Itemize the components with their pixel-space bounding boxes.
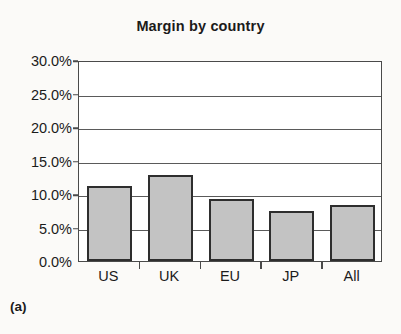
y-axis-tick-mark: [73, 94, 78, 96]
y-axis-tick-label: 30.0%: [6, 53, 72, 69]
gridline: [79, 163, 381, 164]
x-axis-tick-label: US: [78, 268, 139, 284]
y-axis-tick-label: 0.0%: [6, 254, 72, 270]
bar-eu: [209, 199, 254, 261]
bar-jp: [269, 211, 314, 261]
y-axis-tick-label: 10.0%: [6, 187, 72, 203]
x-axis-tick-label: All: [321, 268, 382, 284]
y-axis-tick-mark: [73, 161, 78, 163]
x-axis-tick-label: EU: [200, 268, 261, 284]
y-axis-tick-mark: [73, 228, 78, 230]
figure-caption: (a): [10, 299, 27, 314]
y-axis-tick-mark: [73, 194, 78, 196]
y-axis-tick-mark: [73, 127, 78, 129]
gridline: [79, 129, 381, 130]
plot-area: [78, 61, 382, 262]
y-axis-tick-label: 25.0%: [6, 87, 72, 103]
figure-panel: Margin by country 0.0%5.0%10.0%15.0%20.0…: [0, 0, 401, 334]
y-axis-tick-label: 20.0%: [6, 120, 72, 136]
x-axis-tick-label: UK: [139, 268, 200, 284]
y-axis-tick-mark: [73, 60, 78, 62]
bar-us: [87, 186, 132, 261]
y-axis-tick-label: 15.0%: [6, 154, 72, 170]
y-axis-tick-label: 5.0%: [6, 221, 72, 237]
gridline: [79, 96, 381, 97]
chart-title: Margin by country: [0, 18, 401, 34]
y-axis: 0.0%5.0%10.0%15.0%20.0%25.0%30.0%: [6, 61, 72, 262]
x-axis-tick-label: JP: [260, 268, 321, 284]
bar-all: [330, 205, 375, 261]
bar-uk: [148, 175, 193, 261]
